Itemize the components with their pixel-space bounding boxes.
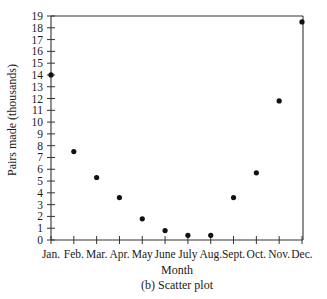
x-tick-label: July bbox=[178, 248, 197, 261]
data-point bbox=[48, 72, 53, 77]
data-point bbox=[117, 195, 122, 200]
data-point bbox=[185, 233, 190, 238]
y-tick-label: 13 bbox=[32, 81, 44, 93]
y-tick-label: 16 bbox=[32, 45, 44, 57]
data-points bbox=[48, 19, 304, 238]
data-point bbox=[71, 149, 76, 154]
x-tick-label: Oct. bbox=[247, 248, 267, 260]
data-point bbox=[299, 19, 304, 24]
y-tick-label: 19 bbox=[32, 10, 44, 22]
data-point bbox=[254, 170, 259, 175]
data-point bbox=[208, 233, 213, 238]
data-point bbox=[231, 195, 236, 200]
x-tick-label: Sept. bbox=[222, 248, 245, 261]
x-tick-label: May bbox=[132, 248, 153, 261]
data-point bbox=[140, 216, 145, 221]
chart-caption: (b) Scatter plot bbox=[141, 278, 214, 292]
y-tick-label: 15 bbox=[32, 57, 44, 69]
y-tick-label: 9 bbox=[37, 128, 43, 140]
data-point bbox=[162, 228, 167, 233]
x-tick-label: Feb. bbox=[64, 248, 84, 260]
y-tick-label: 18 bbox=[32, 22, 44, 34]
y-tick-label: 2 bbox=[37, 210, 43, 222]
y-tick-label: 11 bbox=[32, 104, 43, 116]
x-tick-label: Apr. bbox=[109, 248, 129, 261]
x-tick-label: Nov. bbox=[268, 248, 290, 260]
x-tick-label: June bbox=[155, 248, 176, 260]
x-tick-label: Jan. bbox=[42, 248, 60, 260]
y-tick-label: 6 bbox=[37, 163, 43, 175]
y-tick-label: 0 bbox=[37, 234, 43, 246]
y-tick-label: 8 bbox=[37, 140, 43, 152]
y-tick-label: 1 bbox=[37, 222, 43, 234]
y-tick-label: 4 bbox=[37, 187, 43, 199]
x-axis-title: Month bbox=[161, 263, 193, 277]
y-tick-label: 12 bbox=[32, 93, 44, 105]
x-tick-label: Aug. bbox=[199, 248, 222, 261]
y-tick-label: 3 bbox=[37, 199, 43, 211]
x-tick-label: Mar. bbox=[86, 248, 108, 260]
y-tick-label: 7 bbox=[37, 151, 43, 163]
data-point bbox=[94, 175, 99, 180]
x-tick-label: Dec. bbox=[291, 248, 313, 260]
y-tick-label: 10 bbox=[32, 116, 44, 128]
y-axis-title: Pairs made (thousands) bbox=[5, 64, 19, 176]
data-point bbox=[277, 98, 282, 103]
y-tick-label: 5 bbox=[37, 175, 43, 187]
y-tick-label: 14 bbox=[32, 69, 44, 81]
scatter-chart: 012345678910111213141516171819 Jan.Feb.M… bbox=[0, 0, 327, 299]
plot-frame bbox=[51, 16, 303, 240]
y-tick-label: 17 bbox=[32, 34, 44, 46]
